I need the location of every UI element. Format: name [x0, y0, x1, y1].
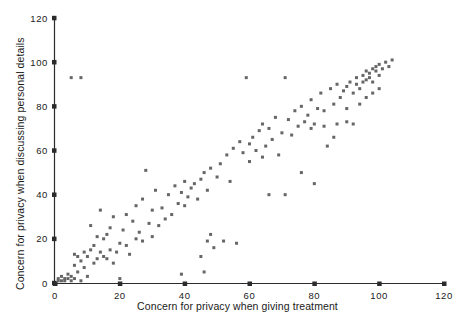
data-point	[173, 184, 176, 187]
data-point	[144, 169, 147, 172]
data-point	[83, 266, 86, 269]
data-point	[316, 107, 319, 110]
data-point	[186, 195, 189, 198]
data-point	[76, 270, 79, 273]
data-point	[66, 273, 69, 276]
data-point	[79, 259, 82, 262]
y-tick-mark	[52, 148, 57, 153]
data-point-layer	[57, 58, 394, 282]
data-point	[190, 187, 193, 190]
data-point	[345, 120, 348, 123]
data-point	[83, 251, 86, 254]
data-point	[73, 264, 76, 267]
data-point	[118, 242, 121, 245]
data-point	[79, 279, 82, 282]
data-point	[290, 134, 293, 137]
data-point	[76, 255, 79, 258]
data-point	[355, 76, 358, 79]
data-point	[271, 138, 274, 141]
data-point	[92, 244, 95, 247]
data-point	[280, 131, 283, 134]
data-point	[125, 213, 128, 216]
data-point	[79, 76, 82, 79]
data-point	[177, 202, 180, 205]
data-point	[371, 81, 374, 84]
data-point	[378, 63, 381, 66]
data-point	[378, 74, 381, 77]
data-point	[342, 89, 345, 92]
data-point	[148, 222, 151, 225]
y-tick-mark	[52, 16, 57, 20]
data-point	[323, 125, 326, 128]
data-point	[73, 277, 76, 280]
data-point	[332, 103, 335, 106]
data-point	[339, 96, 342, 99]
data-point	[368, 76, 371, 79]
data-point	[336, 123, 339, 126]
data-point	[274, 116, 277, 119]
data-point	[105, 257, 108, 260]
data-point	[365, 96, 368, 99]
y-tick-mark	[52, 192, 57, 197]
data-point	[199, 178, 202, 181]
data-point	[70, 275, 73, 278]
data-point	[261, 156, 264, 159]
data-point	[391, 58, 394, 61]
data-point	[300, 105, 303, 108]
data-point	[277, 153, 280, 156]
data-point	[284, 193, 287, 196]
data-point	[374, 70, 377, 73]
data-point	[358, 87, 361, 90]
data-point	[329, 87, 332, 90]
data-point	[348, 81, 351, 84]
data-point	[109, 248, 112, 251]
data-point	[183, 204, 186, 207]
data-point	[183, 180, 186, 183]
data-point	[248, 142, 251, 145]
data-point	[128, 253, 131, 256]
data-point	[86, 275, 89, 278]
data-point	[112, 262, 115, 265]
data-point	[105, 233, 108, 236]
data-point	[141, 198, 144, 201]
data-point	[89, 248, 92, 251]
y-tick-label: 20	[36, 233, 48, 244]
x-tick-mark	[377, 282, 382, 287]
x-tick-mark	[248, 282, 253, 287]
data-point	[319, 92, 322, 95]
data-point	[358, 103, 361, 106]
x-axis-title: Concern for privacy when giving treatmen…	[0, 300, 475, 312]
data-point	[70, 279, 73, 282]
data-point	[206, 189, 209, 192]
data-point	[164, 217, 167, 220]
data-point	[229, 180, 232, 183]
y-axis-title: Concern for privacy when discussing pers…	[14, 37, 26, 290]
data-point	[303, 120, 306, 123]
data-point	[361, 81, 364, 84]
data-point	[219, 162, 222, 165]
data-point	[297, 125, 300, 128]
data-point	[352, 123, 355, 126]
data-point	[378, 87, 381, 90]
data-point	[151, 235, 154, 238]
data-point	[57, 277, 60, 280]
data-point	[193, 182, 196, 185]
data-point	[209, 167, 212, 170]
data-point	[70, 76, 73, 79]
data-point	[242, 151, 245, 154]
data-point	[361, 74, 364, 77]
data-point	[212, 246, 215, 249]
plot-canvas: 020406080100120020406080100120	[0, 0, 475, 321]
data-point	[122, 229, 125, 232]
x-tick-mark	[118, 282, 123, 287]
data-point	[374, 65, 377, 68]
y-tick-label: 120	[30, 13, 48, 24]
data-point	[92, 262, 95, 265]
data-point	[310, 127, 313, 130]
data-point	[99, 251, 102, 254]
data-point	[73, 253, 76, 256]
data-point	[306, 114, 309, 117]
data-point	[96, 235, 99, 238]
data-point	[151, 209, 154, 212]
data-point	[203, 270, 206, 273]
